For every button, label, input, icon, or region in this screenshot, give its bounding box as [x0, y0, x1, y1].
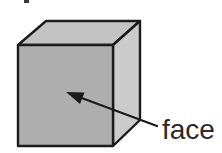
face-label: face: [162, 114, 215, 145]
cube-figure: face: [0, 0, 222, 153]
cropped-text-fragment: [24, 0, 29, 3]
cube-front-face: [18, 45, 113, 146]
cube-diagram-canvas: face: [0, 0, 222, 153]
